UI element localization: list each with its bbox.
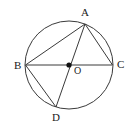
geometry-figure: A B C D O (0, 0, 135, 132)
vertex-label-d: D (52, 112, 60, 123)
center-label-o: O (74, 66, 81, 76)
vertex-label-a: A (81, 7, 89, 18)
center-point-dot (66, 62, 71, 67)
vertex-label-b: B (14, 60, 21, 71)
chord-ab (26, 24, 86, 65)
vertex-label-c: C (117, 59, 124, 70)
